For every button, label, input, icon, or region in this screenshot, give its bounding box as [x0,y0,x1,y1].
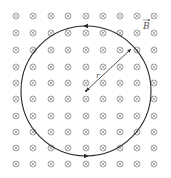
field-into-page-icon [83,64,89,70]
field-into-page-icon [83,161,89,167]
field-into-page-icon [117,13,123,19]
field-into-page-icon [134,145,140,151]
field-into-page-icon [100,145,106,151]
field-into-page-icon [151,64,157,70]
field-into-page-icon [100,13,106,19]
field-into-page-icon [117,161,123,167]
field-into-page-icon [117,80,123,86]
field-into-page-icon [65,13,71,19]
radius-arrow [86,49,131,91]
field-into-page-icon [151,47,157,53]
field-into-page-icon [117,96,123,102]
field-into-page-icon [83,113,89,119]
field-into-page-icon [134,96,140,102]
field-into-page-icon [13,13,19,19]
svg-text:B: B [142,21,150,31]
field-into-page-icon [13,129,19,135]
field-into-page-icon [151,129,157,135]
field-into-page-icon [65,47,71,53]
field-into-page-icon [65,64,71,70]
field-into-page-icon [48,80,54,86]
field-into-page-icon [83,47,89,53]
field-into-page-icon [151,113,157,119]
field-into-page-icon [134,113,140,119]
field-into-page-icon [13,161,19,167]
field-into-page-icon [13,113,19,119]
field-into-page-icon [117,129,123,135]
field-into-page-icon [100,113,106,119]
field-into-page-icon [13,80,19,86]
field-into-page-icon [151,80,157,86]
field-into-page-icon [117,47,123,53]
field-into-page-icon [65,129,71,135]
field-into-page-icon [83,96,89,102]
field-into-page-icon [65,30,71,36]
field-into-page-icon [100,64,106,70]
field-into-page-icon [30,30,36,36]
field-into-page-icon [30,13,36,19]
field-into-page-icon [48,96,54,102]
field-into-page-icon [100,129,106,135]
field-into-page-icon [83,80,89,86]
field-into-page-icon [65,80,71,86]
field-into-page-icon [30,113,36,119]
loop-direction-arrow-bottom-icon [84,154,89,158]
field-into-page-icon [134,30,140,36]
field-into-page-icon [100,47,106,53]
field-into-page-icon [13,30,19,36]
field-into-page-icon [83,145,89,151]
magnetic-field-loop-diagram: r B [0,0,171,178]
field-into-page-icon [151,96,157,102]
field-into-page-icon [30,161,36,167]
field-into-page-icon [151,30,157,36]
field-into-page-icon [13,47,19,53]
field-into-page-icon [48,161,54,167]
field-into-page-icon [13,64,19,70]
field-into-page-icon [151,145,157,151]
radius-label: r [96,71,101,80]
field-into-page-icon [48,13,54,19]
field-into-page-icon [48,47,54,53]
field-into-page-icon [65,96,71,102]
magnetic-field-grid [13,13,157,167]
field-into-page-icon [100,30,106,36]
field-into-page-icon [134,80,140,86]
field-into-page-icon [83,129,89,135]
field-into-page-icon [100,96,106,102]
field-into-page-icon [83,13,89,19]
center-point [85,90,87,92]
field-into-page-icon [65,161,71,167]
field-into-page-icon [30,145,36,151]
field-into-page-icon [117,113,123,119]
field-into-page-icon [48,129,54,135]
field-into-page-icon [30,64,36,70]
field-into-page-icon [13,96,19,102]
field-into-page-icon [13,145,19,151]
loop-direction-arrow-top-icon [83,24,88,28]
field-into-page-icon [30,96,36,102]
field-into-page-icon [134,13,140,19]
field-into-page-icon [65,145,71,151]
field-into-page-icon [48,64,54,70]
field-into-page-icon [30,80,36,86]
field-into-page-icon [65,113,71,119]
field-into-page-icon [48,113,54,119]
field-into-page-icon [134,161,140,167]
field-into-page-icon [100,161,106,167]
field-into-page-icon [100,80,106,86]
field-into-page-icon [134,64,140,70]
field-into-page-icon [151,161,157,167]
field-into-page-icon [117,64,123,70]
field-into-page-icon [151,13,157,19]
field-label: B [142,19,150,31]
field-into-page-icon [83,30,89,36]
